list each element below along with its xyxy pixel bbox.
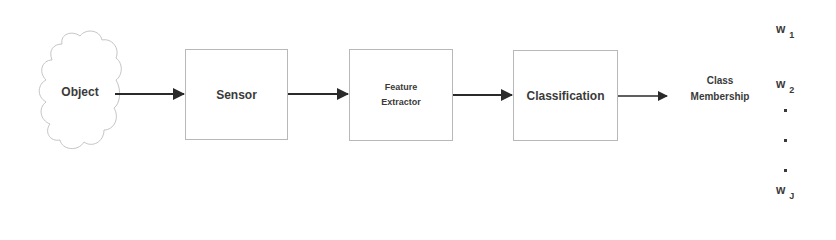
class-w2-subscript: 2 [789,85,794,95]
ellipsis-dot-1 [784,109,787,112]
class-w1-label: w1 [776,22,794,40]
ellipsis-dot-2 [784,139,787,142]
class-membership-label: Class Membership [677,73,763,105]
class-w2-label: w2 [776,77,794,95]
ellipsis-dot-3 [784,169,787,172]
class-w1-base: w [776,22,785,36]
object-label: Object [52,85,108,99]
sensor-label: Sensor [216,88,257,102]
class-wJ-label: wJ [776,183,794,201]
class-w2-base: w [776,77,785,91]
class-wJ-subscript: J [789,191,794,201]
class-wJ-base: w [776,183,785,197]
classification-box: Classification [513,50,618,141]
class-membership-line2: Membership [677,89,763,105]
feature-extractor-box: Feature Extractor [349,49,453,141]
feature-extractor-label-line1: Feature [385,80,418,95]
classification-label: Classification [526,89,604,103]
class-membership-line1: Class [677,73,763,89]
class-w1-subscript: 1 [789,30,794,40]
sensor-box: Sensor [185,49,288,140]
feature-extractor-label-line2: Extractor [381,95,421,110]
